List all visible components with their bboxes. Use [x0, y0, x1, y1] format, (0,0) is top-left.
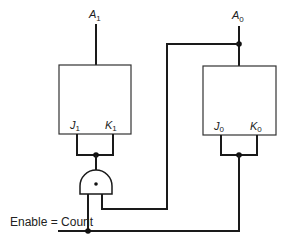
and-gate: [80, 170, 112, 194]
output-a1-label: A1: [88, 8, 101, 23]
jk1-tie-wire: [77, 134, 113, 155]
output-a0-label: A0: [231, 9, 244, 24]
jk0-tie-wire: [221, 135, 257, 155]
and-gate-dot-icon: [94, 182, 98, 186]
enable-label: Enable = Count: [10, 215, 94, 229]
junction-dot-enable: [85, 228, 91, 234]
counter-circuit-diagram: A1 A0 J1 K1 J0 K0 Enable = Count: [0, 0, 284, 241]
